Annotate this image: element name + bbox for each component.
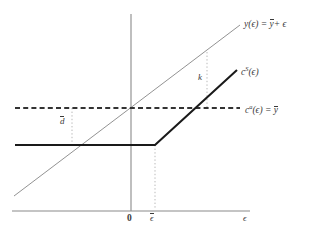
income-label-eq: (ϵ) = <box>248 19 267 29</box>
x-axis-label: ϵ <box>243 214 247 223</box>
constrained-consumption-label: cS(ϵ) <box>241 66 259 78</box>
autarky-consumption-label: ca(ϵ) = y <box>245 104 278 116</box>
d-bar-annotation-label: d <box>60 117 65 126</box>
income-line-label: y(ϵ) = y+ ϵ <box>244 20 286 30</box>
income-label-ybar: y <box>270 20 274 30</box>
income-line <box>14 25 240 196</box>
ca-label-eq: (ϵ) = <box>252 105 271 115</box>
epsilon-bar-tick-label: ϵ <box>150 214 154 223</box>
epsilon-bar-glyph: ϵ <box>150 214 154 223</box>
d-bar-glyph: d <box>60 117 65 126</box>
ca-label-ybar: y <box>274 106 278 116</box>
cs-label-arg: (ϵ) <box>248 67 258 77</box>
figure-root: y(ϵ) = y+ ϵ cS(ϵ) ca(ϵ) = y k d 0 ϵ ϵ <box>0 0 312 234</box>
income-label-tail: + ϵ <box>274 19 287 29</box>
k-annotation-label: k <box>198 73 202 82</box>
origin-label: 0 <box>127 214 132 224</box>
plot-canvas <box>0 0 312 234</box>
